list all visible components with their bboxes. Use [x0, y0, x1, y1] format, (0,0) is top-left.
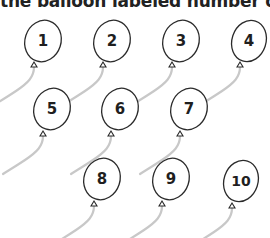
- balloon-number: 6: [115, 100, 125, 118]
- balloon-knot: [229, 203, 235, 208]
- balloon-4[interactable]: 4: [200, 16, 270, 105]
- balloon-knot: [31, 62, 37, 67]
- balloon-5[interactable]: 5: [3, 83, 76, 174]
- balloon-knot: [40, 131, 46, 136]
- balloon-string: [3, 136, 43, 174]
- balloon-field: 12345678910: [0, 0, 270, 238]
- balloon-number: 1: [38, 32, 48, 50]
- balloon-string: [132, 67, 172, 105]
- balloon-8[interactable]: 8: [54, 153, 126, 238]
- balloon-number: 10: [231, 173, 251, 189]
- balloon-number: 7: [184, 100, 194, 118]
- balloon-knot: [237, 62, 243, 67]
- balloon-number: 5: [47, 100, 57, 118]
- balloon-number: 8: [97, 170, 107, 188]
- balloon-knot: [159, 201, 165, 206]
- balloon-number: 4: [244, 32, 254, 50]
- balloon-knot: [91, 201, 97, 206]
- balloon-string: [0, 67, 34, 105]
- balloon-knot: [177, 131, 183, 136]
- balloon-knot: [108, 131, 114, 136]
- balloon-string: [122, 206, 162, 238]
- balloon-string: [192, 208, 232, 238]
- balloon-9[interactable]: 9: [122, 153, 195, 238]
- balloon-10[interactable]: 10: [192, 156, 264, 238]
- balloon-number: 9: [166, 170, 176, 188]
- balloon-number: 2: [107, 32, 117, 50]
- balloon-knot: [100, 62, 106, 67]
- balloon-knot: [169, 62, 175, 67]
- balloon-number: 3: [176, 32, 186, 50]
- balloon-string: [54, 206, 94, 238]
